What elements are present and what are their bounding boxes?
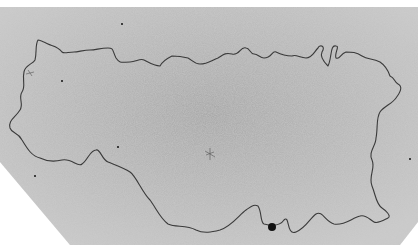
speck xyxy=(61,80,63,82)
speck xyxy=(121,23,123,25)
speck xyxy=(117,146,119,148)
speck xyxy=(409,158,411,160)
micrograph xyxy=(0,0,418,249)
specimen-grain xyxy=(0,7,418,245)
dense-particle xyxy=(268,223,276,231)
speck xyxy=(34,175,36,177)
